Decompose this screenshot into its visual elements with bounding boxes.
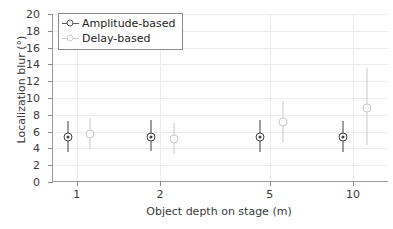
y-tick: 2 <box>48 165 53 166</box>
x-tick <box>160 181 161 186</box>
y-tick-label: 8 <box>33 108 40 121</box>
x-axis-label: Object depth on stage (m) <box>45 205 393 218</box>
y-tick: 16 <box>48 48 53 49</box>
gridline <box>53 81 388 82</box>
legend-label: Amplitude-based <box>82 17 176 30</box>
y-tick-label: 20 <box>26 8 40 21</box>
legend-item-delay-based[interactable]: Delay-based <box>62 31 176 46</box>
y-tick-label: 6 <box>33 125 40 138</box>
y-tick: 8 <box>48 115 53 116</box>
gridline <box>53 165 388 166</box>
marker-center-dot <box>258 135 261 138</box>
data-point-marker <box>339 133 348 142</box>
gridline <box>270 14 271 181</box>
data-point-marker <box>255 132 264 141</box>
data-point-marker <box>146 132 155 141</box>
data-point-marker <box>86 130 95 139</box>
y-tick: 10 <box>48 98 53 99</box>
marker-center-dot <box>342 136 345 139</box>
y-tick-label: 18 <box>26 24 40 37</box>
gridline <box>53 98 388 99</box>
y-tick-label: 2 <box>33 159 40 172</box>
x-tick-label: 5 <box>266 188 273 201</box>
data-point-marker <box>362 104 371 113</box>
x-tick-label: 10 <box>346 188 360 201</box>
x-tick <box>270 181 271 186</box>
y-tick-label: 16 <box>26 41 40 54</box>
chart-legend[interactable]: Amplitude-basedDelay-based <box>58 13 183 50</box>
y-tick-label: 10 <box>26 92 40 105</box>
marker-center-dot <box>149 135 152 138</box>
y-tick: 14 <box>48 64 53 65</box>
gridline <box>53 64 388 65</box>
y-tick: 18 <box>48 31 53 32</box>
y-tick-label: 12 <box>26 75 40 88</box>
marker-center-dot <box>67 136 70 139</box>
gridline <box>53 115 388 116</box>
y-tick: 12 <box>48 81 53 82</box>
gridline <box>353 14 354 181</box>
legend-marker-icon <box>62 32 79 45</box>
y-tick: 20 <box>48 14 53 15</box>
data-point-marker <box>279 118 288 127</box>
x-tick <box>353 181 354 186</box>
y-tick: 4 <box>48 148 53 149</box>
y-tick: 0 <box>48 182 53 183</box>
localization-blur-chart: Localization blur (°) Object depth on st… <box>0 0 393 229</box>
x-tick-label: 2 <box>156 188 163 201</box>
y-tick-label: 14 <box>26 58 40 71</box>
data-point-marker <box>64 133 73 142</box>
y-tick: 6 <box>48 132 53 133</box>
legend-label: Delay-based <box>82 32 151 45</box>
x-tick-label: 1 <box>73 188 80 201</box>
legend-marker-icon <box>62 17 79 30</box>
x-tick <box>77 181 78 186</box>
y-tick-label: 4 <box>33 142 40 155</box>
data-point-marker <box>170 135 179 144</box>
gridline <box>53 148 388 149</box>
legend-item-amplitude-based[interactable]: Amplitude-based <box>62 16 176 31</box>
y-tick-label: 0 <box>33 176 40 189</box>
gridline <box>53 132 388 133</box>
